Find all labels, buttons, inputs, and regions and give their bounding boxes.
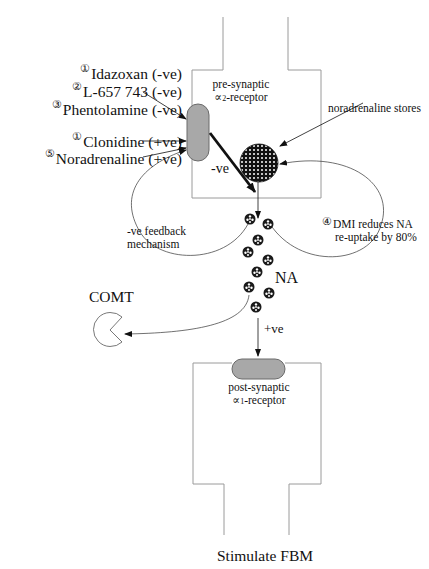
drug-number: ② <box>72 80 82 92</box>
postsynaptic-label-line2: ∝1-receptor <box>222 395 296 407</box>
reuptake-number: ④ <box>322 215 332 227</box>
drug-label-phentolamine: ③Phentolamine (-ve) <box>52 102 182 118</box>
receptor-suffix: -receptor <box>226 91 268 103</box>
drug-label-l657743: ②L-657 743 (-ve) <box>72 84 182 100</box>
drug-label-clonidine: ①Clonidine (+ve) <box>72 134 182 150</box>
presynaptic-receptor-label: pre-synaptic ∝2-receptor <box>206 79 276 103</box>
diagram-canvas: ①Idazoxan (-ve) ②L-657 743 (-ve) ③Phento… <box>0 0 429 569</box>
postsynaptic-receptor <box>232 359 285 379</box>
presynaptic-label-line2: ∝2-receptor <box>206 92 276 104</box>
feedback-label-line2: mechanism <box>127 239 186 251</box>
drug-name: Clonidine (+ve) <box>83 133 182 150</box>
presynaptic-label-line1: pre-synaptic <box>206 79 276 91</box>
na-label: NA <box>275 270 298 286</box>
negative-arrow-label: -ve <box>211 162 229 176</box>
alpha-icon: ∝ <box>214 91 222 103</box>
drug-number: ① <box>72 130 82 142</box>
drug-number: ③ <box>52 98 62 110</box>
drug-name: Phentolamine (-ve) <box>63 101 182 118</box>
presynaptic-receptor <box>187 104 209 161</box>
drug-name: Idazoxan (-ve) <box>91 65 182 82</box>
receptor-suffix: -receptor <box>244 394 286 406</box>
drug-name: Noradrenaline (+ve) <box>56 150 182 167</box>
drug-name: L-657 743 (-ve) <box>83 83 182 100</box>
feedback-label: -ve feedback mechanism <box>127 226 186 250</box>
alpha-icon: ∝ <box>232 394 240 406</box>
drug-label-idazoxan: ①Idazoxan (-ve) <box>80 66 182 82</box>
drug-number: ⑤ <box>45 147 55 159</box>
feedback-label-line1: -ve feedback <box>127 226 186 238</box>
stimulate-fbm-label: Stimulate FBM <box>217 548 313 564</box>
comt-label: COMT <box>89 289 134 305</box>
positive-arrow-label: +ve <box>264 322 284 335</box>
postsynaptic-label-line1: post-synaptic <box>222 382 296 394</box>
reuptake-label: ④DMI reduces NA re-uptake by 80% <box>322 219 417 243</box>
reuptake-line2: re-uptake by 80% <box>335 232 417 244</box>
noradrenaline-stores-label: noradrenaline stores <box>328 103 421 115</box>
comt-metabolism-arrow <box>125 295 249 334</box>
noradrenaline-stores-icon <box>240 144 278 182</box>
noradrenaline-molecules <box>243 214 275 313</box>
reuptake-line1: DMI reduces NA <box>333 218 413 230</box>
drug-label-noradrenaline: ⑤Noradrenaline (+ve) <box>45 151 182 167</box>
postsynaptic-receptor-label: post-synaptic ∝1-receptor <box>222 382 296 406</box>
comt-enzyme-icon <box>93 313 122 347</box>
drug-number: ① <box>80 62 90 74</box>
